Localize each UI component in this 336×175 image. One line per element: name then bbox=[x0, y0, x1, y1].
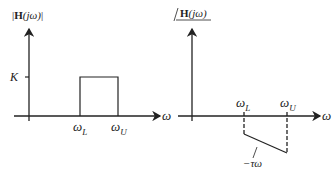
passband-rectangle bbox=[80, 77, 118, 116]
filter-diagram bbox=[0, 0, 336, 175]
subscript-u: U bbox=[120, 127, 127, 137]
h-symbol: H bbox=[14, 9, 23, 21]
jw-arg: (jω) bbox=[189, 7, 207, 19]
omega-symbol: ω bbox=[280, 95, 289, 110]
jw-arg: (jω) bbox=[23, 9, 41, 21]
omega-u-label: ωU bbox=[111, 119, 127, 137]
slope-label: −τω bbox=[243, 157, 262, 169]
h-symbol: H bbox=[180, 7, 189, 19]
phase-omega-u-label: ωU bbox=[280, 95, 296, 113]
abs-bar-right: | bbox=[41, 9, 43, 21]
phase-plot bbox=[174, 8, 320, 158]
phase-y-label: H(jω) bbox=[180, 7, 207, 19]
magnitude-x-label: ω bbox=[162, 108, 171, 124]
subscript-l: L bbox=[245, 103, 250, 113]
omega-l-label: ωL bbox=[73, 119, 87, 137]
phase-omega-l-label: ωL bbox=[236, 95, 250, 113]
subscript-u: U bbox=[289, 103, 296, 113]
linear-phase-line bbox=[244, 134, 287, 153]
phase-x-label: ω bbox=[322, 108, 331, 124]
magnitude-y-label: |H(jω)| bbox=[12, 9, 43, 21]
omega-symbol: ω bbox=[236, 95, 245, 110]
magnitude-plot bbox=[14, 29, 160, 121]
subscript-l: L bbox=[82, 127, 87, 137]
omega-symbol: ω bbox=[73, 119, 82, 134]
angle-slash bbox=[174, 8, 178, 21]
k-label: K bbox=[10, 70, 18, 85]
omega-symbol: ω bbox=[111, 119, 120, 134]
